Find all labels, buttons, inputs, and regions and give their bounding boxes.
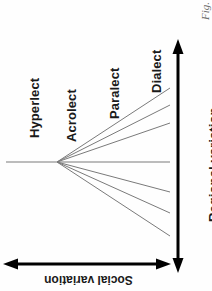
fan-line-down-3 (57, 162, 170, 236)
lect-fan-diagram (0, 0, 212, 291)
label-dialect: Dialect (149, 50, 164, 93)
figure-container: Hyperlect Acrolect Paralect Dialect Regi… (0, 0, 212, 291)
axis-label-social-variation: Social variation (6, 273, 171, 287)
horizontal-axis-arrow (3, 259, 171, 270)
axis-label-regional-variation: Regional variation (206, 108, 212, 223)
label-paralect: Paralect (107, 68, 122, 119)
label-hyperlect: Hyperlect (27, 78, 42, 138)
label-acrolect: Acrolect (64, 89, 79, 142)
vertical-axis-arrow (173, 39, 184, 273)
figure-caption: Fig. (199, 2, 211, 20)
